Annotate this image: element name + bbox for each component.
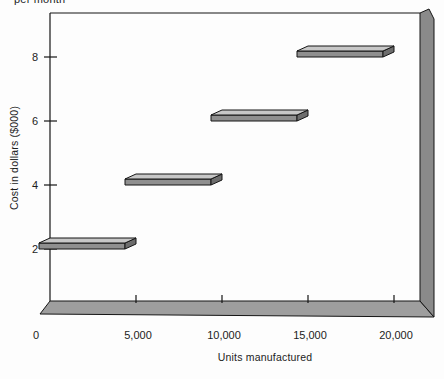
x-tick-label: 20,000 [379, 329, 413, 341]
step-slab-top [211, 110, 308, 115]
step-slab-top [39, 238, 136, 243]
x-tick-label: 0 [33, 329, 39, 341]
y-tick-label: 6 [12, 115, 38, 127]
step-slab-front [211, 115, 297, 121]
y-tick-label: 8 [12, 51, 38, 63]
step-slab-top [297, 46, 394, 51]
x-axis-title: Units manufactured [218, 351, 313, 363]
chart-right-wall-3d [420, 9, 434, 317]
plot-area [0, 0, 444, 379]
step-slab-front [39, 243, 125, 249]
step-slab-front [125, 179, 211, 185]
step-slab-top [125, 174, 222, 179]
step-cost-chart: per month Cost in dollars ($000) 246805,… [0, 0, 444, 379]
x-tick-label: 15,000 [293, 329, 327, 341]
y-tick-label: 4 [12, 179, 38, 191]
step-slab-front [297, 51, 383, 57]
y-tick-label: 2 [12, 243, 38, 255]
x-tick-label: 5,000 [124, 329, 152, 341]
x-tick-label: 10,000 [207, 329, 241, 341]
chart-floor-3d [40, 301, 434, 317]
